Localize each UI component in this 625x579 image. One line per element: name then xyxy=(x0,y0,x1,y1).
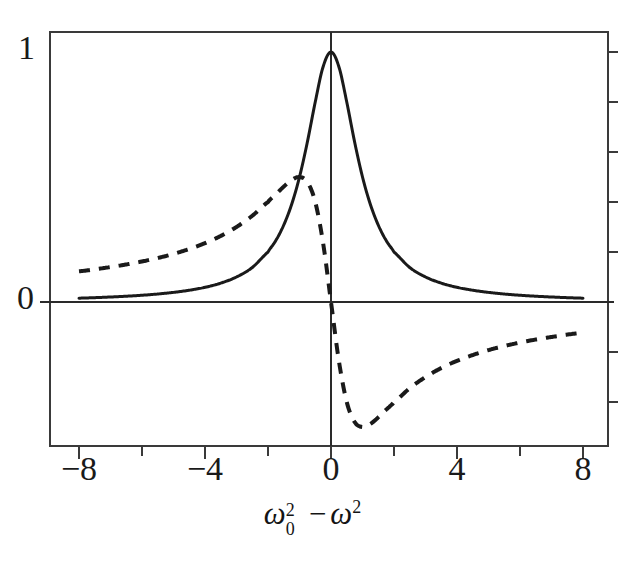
x-tick-label-neg4: −4 xyxy=(187,452,223,486)
x-tick-label-neg8: −8 xyxy=(61,452,97,486)
resonance-lineshape-figure: 1 0 −8−4048 ω20−ω2 xyxy=(0,0,625,579)
x-tick-label-0: 0 xyxy=(323,452,340,486)
y-axis-minor-ticks-right xyxy=(608,52,618,402)
y-tick-label-0: 0 xyxy=(17,281,34,315)
plot-canvas xyxy=(0,0,625,579)
x-axis-title: ω20−ω2 xyxy=(0,496,625,532)
x-tick-label-8: 8 xyxy=(575,452,592,486)
x-tick-label-4: 4 xyxy=(449,452,466,486)
plot-frame xyxy=(50,32,608,446)
y-tick-label-1: 1 xyxy=(18,31,35,65)
